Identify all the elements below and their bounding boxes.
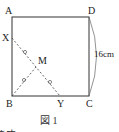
equal-length-marks xyxy=(22,50,51,83)
point-label-a: A xyxy=(5,6,12,16)
point-label-x: X xyxy=(2,33,9,43)
point-label-c: C xyxy=(86,99,93,109)
point-label-b: B xyxy=(6,99,13,109)
geometry-figure xyxy=(0,0,119,132)
point-label-m: M xyxy=(38,56,47,66)
point-label-d: D xyxy=(88,6,95,16)
point-label-y: Y xyxy=(57,99,64,109)
figure-caption: 図 1 xyxy=(40,112,58,127)
side-length-label: 16cm xyxy=(94,50,114,59)
footer-partial-text: ます。 xyxy=(0,126,25,132)
